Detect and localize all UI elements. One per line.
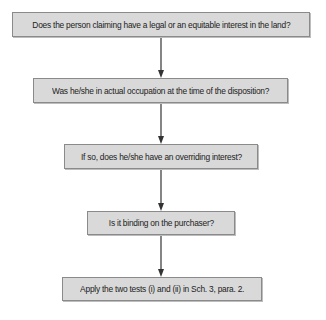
step-label: If so, does he/she have an overriding in… <box>80 152 241 162</box>
step-binding-on-purchaser: Is it binding on the purchaser? <box>87 211 235 235</box>
step-legal-or-equitable-interest: Does the person claiming have a legal or… <box>12 12 310 37</box>
step-overriding-interest: If so, does he/she have an overriding in… <box>64 144 258 169</box>
step-actual-occupation: Was he/she in actual occupation at the t… <box>33 78 288 103</box>
step-label: Is it binding on the purchaser? <box>108 218 213 228</box>
arrow-down-icon <box>158 103 164 144</box>
arrow-down-icon <box>158 37 164 78</box>
arrow-down-icon <box>158 169 164 211</box>
flowchart: Does the person claiming have a legal or… <box>0 0 326 320</box>
step-label: Does the person claiming have a legal or… <box>32 20 290 30</box>
arrow-down-icon <box>158 235 164 277</box>
step-apply-two-tests: Apply the two tests (i) and (ii) in Sch.… <box>62 277 262 301</box>
step-label: Was he/she in actual occupation at the t… <box>52 86 269 96</box>
step-label: Apply the two tests (i) and (ii) in Sch.… <box>80 284 244 294</box>
